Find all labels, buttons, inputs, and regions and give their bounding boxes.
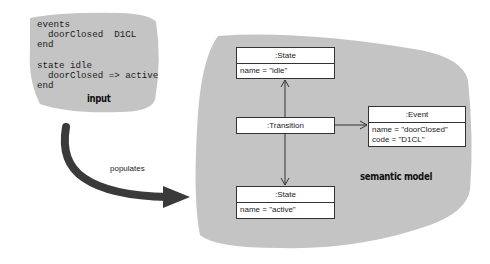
attribute-name: name = "doorClosed" [372,125,465,135]
object-header: :State [237,187,334,203]
event-object: :Event name = "doorClosed" code = "D1CL" [368,106,466,147]
input-label: input [87,93,110,104]
attribute-name: name = "active" [240,205,334,215]
attribute-name: name = "idle" [240,66,334,76]
object-attributes: name = "active" [237,203,334,215]
object-attributes: name = "doorClosed" code = "D1CL" [369,123,465,144]
state-idle-object: :State name = "idle" [236,47,335,79]
object-attributes: name = "idle" [237,64,334,76]
semantic-model-label: semantic model [360,171,432,182]
dsl-code-block: events doorClosed D1CL end state idle do… [37,20,158,91]
object-header: :Event [369,107,465,123]
attribute-code: code = "D1CL" [372,135,465,145]
state-active-object: :State name = "active" [236,186,335,219]
populates-label: populates [110,164,145,173]
transition-object: :Transition [236,117,335,134]
object-header: :State [237,48,334,64]
